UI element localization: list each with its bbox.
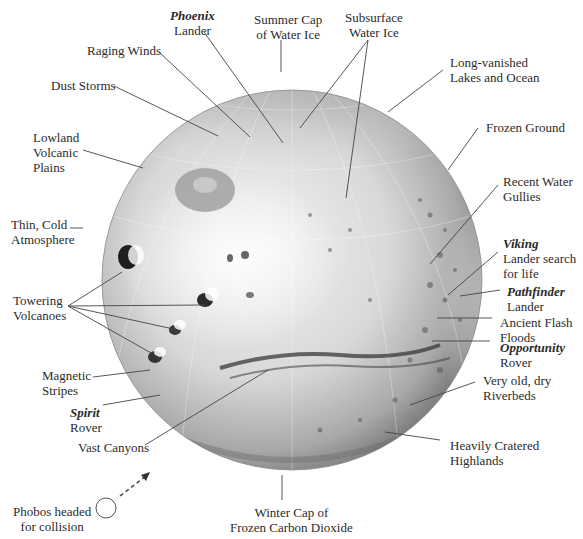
- label-lowland-volcanic-plains: Lowland Volcanic Plains: [33, 130, 79, 175]
- label-title: Viking: [503, 236, 576, 251]
- label-line: Volcanic: [33, 145, 79, 160]
- label-line: Rover: [500, 355, 565, 370]
- label-magnetic-stripes: Magnetic Stripes: [42, 368, 91, 398]
- label-line: Vast Canyons: [78, 440, 149, 455]
- label-line: Subsurface: [345, 10, 403, 25]
- label-raging-winds: Raging Winds: [87, 43, 161, 58]
- mars-diagram: Phoenix Lander Summer Cap of Water Ice S…: [0, 0, 583, 539]
- label-long-vanished-lakes: Long-vanished Lakes and Ocean: [450, 55, 540, 85]
- label-heavily-cratered-highlands: Heavily Cratered Highlands: [450, 438, 539, 468]
- label-summer-cap: Summer Cap of Water Ice: [254, 12, 322, 42]
- label-line: Lander: [507, 299, 565, 314]
- label-thin-cold-atmosphere: Thin, Cold Atmosphere: [11, 217, 75, 247]
- label-line: Highlands: [450, 453, 539, 468]
- phobos-trajectory-arrow-icon: [120, 472, 150, 496]
- label-line: Magnetic: [42, 368, 91, 383]
- label-line: Phobos headed: [13, 504, 91, 519]
- label-line: for life: [503, 266, 576, 281]
- label-line: Lander: [170, 23, 215, 38]
- label-title: Phoenix: [170, 8, 215, 23]
- label-line: Frozen Ground: [486, 120, 565, 135]
- label-line: Riverbeds: [483, 388, 551, 403]
- label-phoenix-lander: Phoenix Lander: [170, 8, 215, 38]
- label-line: Ancient Flash: [500, 315, 573, 330]
- label-line: Dust Storms: [51, 78, 116, 93]
- label-title: Opportunity: [500, 340, 565, 355]
- label-frozen-ground: Frozen Ground: [486, 120, 565, 135]
- label-spirit-rover: Spirit Rover: [70, 405, 102, 435]
- label-line: of Water Ice: [254, 27, 322, 42]
- label-line: Very old, dry: [483, 373, 551, 388]
- label-recent-water-gullies: Recent Water Gullies: [503, 174, 573, 204]
- label-line: Lowland: [33, 130, 79, 145]
- label-line: Summer Cap: [254, 12, 322, 27]
- label-line: Gullies: [503, 189, 573, 204]
- label-line: Recent Water: [503, 174, 573, 189]
- label-viking-lander: Viking Lander search for life: [503, 236, 576, 281]
- label-line: Volcanoes: [13, 308, 66, 323]
- label-line: Thin, Cold: [11, 217, 75, 232]
- label-dust-storms: Dust Storms: [51, 78, 116, 93]
- label-line: Raging Winds: [87, 43, 161, 58]
- label-opportunity-rover: Opportunity Rover: [500, 340, 565, 370]
- label-line: for collision: [13, 519, 91, 534]
- label-pathfinder-lander: Pathfinder Lander: [507, 284, 565, 314]
- label-title: Spirit: [70, 405, 102, 420]
- label-line: Towering: [13, 293, 66, 308]
- label-line: Heavily Cratered: [450, 438, 539, 453]
- label-line: Lander search: [503, 251, 576, 266]
- label-title: Pathfinder: [507, 284, 565, 299]
- label-line: Stripes: [42, 383, 91, 398]
- label-line: Frozen Carbon Dioxide: [230, 520, 353, 535]
- label-dry-riverbeds: Very old, dry Riverbeds: [483, 373, 551, 403]
- label-line: Long-vanished: [450, 55, 540, 70]
- label-winter-cap: Winter Cap of Frozen Carbon Dioxide: [230, 505, 353, 535]
- label-vast-canyons: Vast Canyons: [78, 440, 149, 455]
- phobos-icon: [96, 498, 116, 518]
- north-polar-cap: [255, 51, 315, 79]
- label-line: Lakes and Ocean: [450, 70, 540, 85]
- label-phobos: Phobos headed for collision: [13, 504, 91, 534]
- label-line: Winter Cap of: [230, 505, 353, 520]
- label-towering-volcanoes: Towering Volcanoes: [13, 293, 66, 323]
- label-subsurface-water-ice: Subsurface Water Ice: [345, 10, 403, 40]
- label-line: Plains: [33, 160, 79, 175]
- label-line: Rover: [70, 420, 102, 435]
- label-line: Atmosphere: [11, 232, 75, 247]
- label-line: Water Ice: [345, 25, 403, 40]
